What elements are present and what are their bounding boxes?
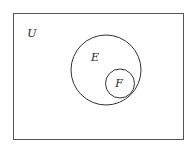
universe-rectangle (14, 14, 184, 140)
set-e-circle (71, 35, 141, 105)
venn-diagram: U E F (0, 0, 193, 147)
universe-label: U (27, 27, 37, 40)
set-f-label: F (114, 77, 123, 90)
set-e-label: E (90, 51, 99, 64)
